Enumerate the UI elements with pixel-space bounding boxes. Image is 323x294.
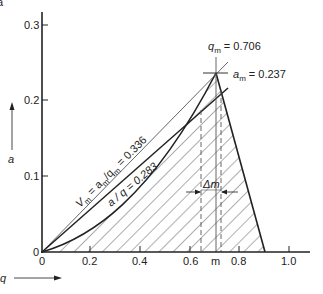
x-tick-label: m <box>211 255 220 267</box>
x-tick-label: 0.2 <box>82 255 97 267</box>
qm-label: qm = 0.706 <box>208 40 261 55</box>
x-tick-label: 0.8 <box>231 255 246 267</box>
y-tick-label: 0.3 <box>24 19 39 31</box>
x-tick-label: 1.0 <box>281 255 296 267</box>
x-tick-label: 0 <box>39 255 45 267</box>
y-tick-label: 0.1 <box>24 170 39 182</box>
arrow-right-icon <box>54 276 62 281</box>
corner-mark: a <box>0 0 4 8</box>
x-tick-label: 0.4 <box>132 255 147 267</box>
delta-m-label: Δm <box>202 178 220 190</box>
chart: Δm 0.3 0.2 0.1 0 0 0.2 0.4 0.6 m 0.8 1.0… <box>0 0 323 294</box>
x-tick-label: 0.6 <box>183 255 198 267</box>
x-axis-label: q <box>0 272 7 284</box>
arrow-up-icon <box>10 102 15 110</box>
y-axis-label: a <box>8 153 14 165</box>
y-tick-label: 0.2 <box>24 94 39 106</box>
am-label: am = 0.237 <box>233 68 286 83</box>
